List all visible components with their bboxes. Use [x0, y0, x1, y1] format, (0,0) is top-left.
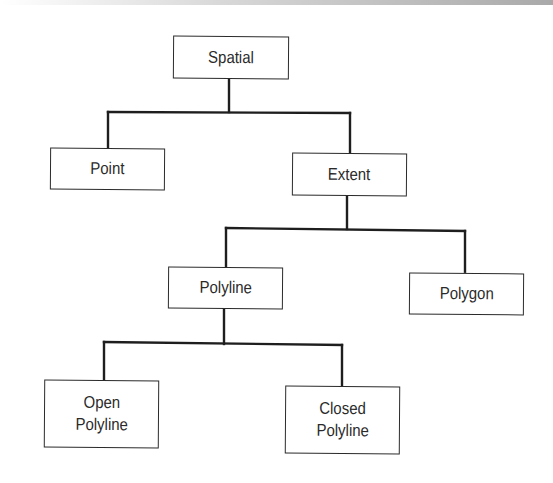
edge-extent-bar	[226, 228, 465, 231]
node-open-polyline-label-line1: Open	[83, 392, 120, 414]
node-spatial-label: Spatial	[208, 46, 254, 68]
node-closed-polyline-label-line2: Polyline	[316, 420, 369, 442]
node-polyline-label: Polyline	[199, 277, 252, 299]
node-extent-label: Extent	[328, 163, 371, 185]
node-polygon: Polygon	[409, 273, 524, 316]
node-extent: Extent	[292, 153, 407, 197]
node-point-label: Point	[90, 158, 124, 180]
node-closed-polyline: Closed Polyline	[285, 386, 400, 455]
node-polygon-label: Polygon	[439, 283, 493, 305]
node-polyline: Polyline	[168, 267, 283, 310]
edge-spatial-bar	[108, 112, 350, 113]
node-open-polyline: Open Polyline	[44, 380, 159, 449]
node-spatial: Spatial	[173, 36, 289, 80]
node-open-polyline-label-line2: Polyline	[75, 414, 128, 436]
edge-polyline-bar	[104, 342, 342, 345]
node-closed-polyline-label-line1: Closed	[319, 398, 366, 420]
node-point: Point	[50, 148, 165, 191]
